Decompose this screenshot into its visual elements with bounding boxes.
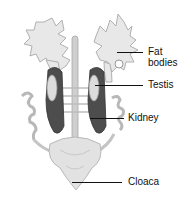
frog-urogenital-diagram: Fat bodies Testis Kidney Cloaca xyxy=(0,0,187,198)
right-testis xyxy=(89,75,99,101)
left-coiled-duct xyxy=(22,93,36,140)
left-testis xyxy=(47,75,57,101)
label-fat-bodies-line1: Fat xyxy=(148,46,177,57)
anatomy-illustration xyxy=(0,0,187,198)
label-fat-bodies-line2: bodies xyxy=(148,57,177,68)
testis-leader-line xyxy=(95,85,143,86)
left-fat-body xyxy=(24,18,70,82)
cloaca-leader-line xyxy=(72,182,122,183)
central-vessel xyxy=(72,36,78,146)
right-coiled-duct xyxy=(112,96,124,130)
fat-bodies-leader-line xyxy=(117,52,143,53)
kidney-leader-line xyxy=(90,118,124,119)
label-testis: Testis xyxy=(148,79,174,90)
label-fat-bodies: Fat bodies xyxy=(148,46,177,68)
label-cloaca: Cloaca xyxy=(128,176,159,187)
label-kidney: Kidney xyxy=(128,112,159,123)
